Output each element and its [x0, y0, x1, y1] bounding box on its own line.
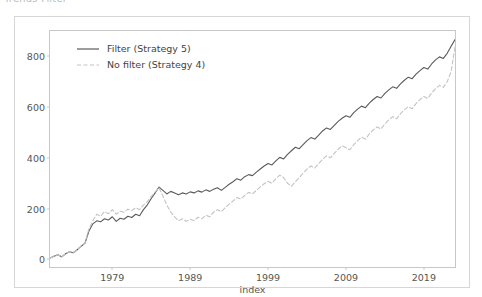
chart-screenshot: Trends Filter 0200400600800 197919891999…: [0, 0, 482, 297]
legend-line-swatch: [76, 44, 100, 54]
x-tick-label: 2009: [334, 272, 358, 283]
y-tick-label: 800: [27, 51, 45, 62]
x-tick-mark: [345, 267, 346, 270]
legend-item: Filter (Strategy 5): [76, 42, 205, 55]
y-tick-label: 200: [27, 203, 45, 214]
chart-legend: Filter (Strategy 5)No filter (Strategy 4…: [76, 42, 205, 71]
x-tick-label: 2019: [412, 272, 436, 283]
x-axis-label: index: [240, 284, 266, 295]
y-tick-label: 600: [27, 102, 45, 113]
x-tick-label: 1979: [100, 272, 124, 283]
y-tick-label: 0: [39, 254, 45, 265]
x-tick-mark: [268, 267, 269, 270]
x-tick-mark: [190, 267, 191, 270]
figure-caption: Trends Filter: [4, 0, 67, 4]
series-line-0: [50, 40, 455, 258]
x-tick-mark: [112, 267, 113, 270]
legend-line-swatch: [76, 60, 100, 70]
y-tick-label: 400: [27, 152, 45, 163]
plot-area: 0200400600800 19791989199920092019 index…: [49, 30, 456, 268]
legend-item: No filter (Strategy 4): [76, 58, 205, 71]
series-layer: [50, 40, 455, 258]
x-tick-mark: [423, 267, 424, 270]
y-tick-mark: [47, 157, 50, 158]
legend-label: Filter (Strategy 5): [107, 43, 191, 54]
series-line-1: [50, 47, 455, 258]
y-tick-mark: [47, 208, 50, 209]
legend-label: No filter (Strategy 4): [107, 59, 205, 70]
chart-card: 0200400600800 19791989199920092019 index…: [14, 16, 470, 288]
x-tick-label: 1999: [256, 272, 280, 283]
y-tick-mark: [47, 107, 50, 108]
x-tick-label: 1989: [178, 272, 202, 283]
y-tick-mark: [47, 259, 50, 260]
y-tick-mark: [47, 56, 50, 57]
